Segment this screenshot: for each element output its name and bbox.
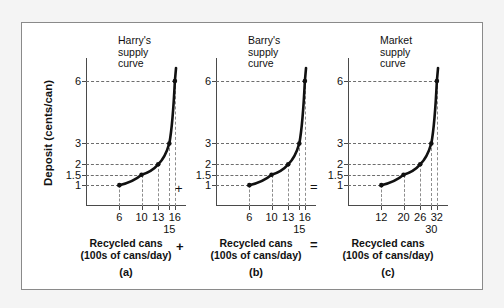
panel-a-xlabel: Recycled cans (100s of cans/day) xyxy=(64,237,188,261)
x-tick-label: 32 xyxy=(431,211,443,223)
x-tick-label-offset: 15 xyxy=(293,223,305,235)
y-tick-label: 6 xyxy=(75,75,81,87)
y-tick-label: 1 xyxy=(337,179,343,191)
x-tick-label: 6 xyxy=(246,211,252,223)
x-tick-label: 10 xyxy=(135,211,147,223)
data-point-marker xyxy=(286,162,291,167)
y-tick-label: 3 xyxy=(205,137,211,149)
supply-curve-path xyxy=(381,68,438,185)
y-tick-label: 2 xyxy=(205,158,211,170)
data-point-marker xyxy=(429,141,434,146)
data-point-marker xyxy=(435,79,440,84)
operator-plus-top: + xyxy=(175,181,183,196)
supply-curve xyxy=(348,58,478,236)
data-point-marker xyxy=(247,183,252,188)
panel-c-ytick-labels: 11.5236 xyxy=(314,58,343,206)
y-tick-label: 1 xyxy=(205,179,211,191)
data-point-marker xyxy=(156,162,161,167)
operator-plus-bottom: + xyxy=(176,239,184,254)
x-tick-label-offset: 30 xyxy=(425,223,437,235)
x-tick-label: 12 xyxy=(375,211,387,223)
x-tick-label: 10 xyxy=(265,211,277,223)
data-point-marker xyxy=(173,79,178,84)
panel-c-xlabel: Recycled cans (100s of cans/day) xyxy=(326,237,450,261)
y-tick-label: 2 xyxy=(337,158,343,170)
data-point-marker xyxy=(269,172,274,177)
y-tick-label: 6 xyxy=(205,75,211,87)
x-tick-label: 26 xyxy=(414,211,426,223)
y-tick-label: 3 xyxy=(337,137,343,149)
supply-curve-path xyxy=(119,68,176,185)
chart-panel-c: Market supply curve 11.5236 Recycled can… xyxy=(318,23,458,291)
data-point-marker xyxy=(303,79,308,84)
y-tick-label: 1.5 xyxy=(196,169,211,181)
panel-b-axes: 11.5236 xyxy=(216,58,316,206)
panel-a-ytick-labels: 11.5236 xyxy=(52,58,81,206)
panel-b-ytick-labels: 11.5236 xyxy=(182,58,211,206)
y-tick-label: 1.5 xyxy=(66,169,81,181)
data-point-marker xyxy=(167,141,172,146)
data-point-marker xyxy=(117,183,122,188)
operator-equals-top: = xyxy=(310,179,318,194)
x-tick-label: 16 xyxy=(169,211,181,223)
x-tick-label: 16 xyxy=(299,211,311,223)
panel-a-axes: 11.5236 xyxy=(86,58,186,206)
y-tick-label: 2 xyxy=(75,158,81,170)
panel-b-xlabel: Recycled cans (100s of cans/day) xyxy=(194,237,318,261)
x-tick-label: 13 xyxy=(282,211,294,223)
x-tick-label-offset: 15 xyxy=(163,223,175,235)
panel-c-axes: 11.5236 xyxy=(348,58,448,206)
y-tick-label: 6 xyxy=(337,75,343,87)
panel-c-letter: (c) xyxy=(326,266,450,278)
x-tick-label: 13 xyxy=(152,211,164,223)
data-point-marker xyxy=(297,141,302,146)
panel-b-letter: (b) xyxy=(194,266,318,278)
panel-a-letter: (a) xyxy=(64,266,188,278)
x-tick-label: 6 xyxy=(116,211,122,223)
operator-equals-bottom: = xyxy=(310,237,318,252)
data-point-marker xyxy=(401,172,406,177)
data-point-marker xyxy=(418,162,423,167)
chart-panel-a: Harry's supply curve 11.5236 Recycled ca… xyxy=(56,23,196,291)
figure-frame: Deposit (cents/can) Harry's supply curve… xyxy=(21,22,483,290)
x-tick-label: 20 xyxy=(397,211,409,223)
y-tick-label: 3 xyxy=(75,137,81,149)
data-point-marker xyxy=(139,172,144,177)
chart-panel-b: Barry's supply curve 11.5236 Recycled ca… xyxy=(186,23,326,291)
y-tick-label: 1.5 xyxy=(328,169,343,181)
supply-curve-path xyxy=(249,68,306,185)
y-tick-label: 1 xyxy=(75,179,81,191)
data-point-marker xyxy=(379,183,384,188)
